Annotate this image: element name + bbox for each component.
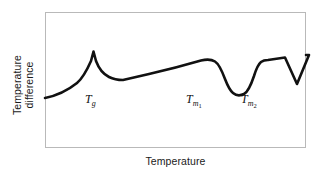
annotation-tm2: Tm2 xyxy=(241,92,257,107)
annotation-tm1: Tm1 xyxy=(186,92,202,107)
thermogram-curve xyxy=(45,12,306,148)
dta-thermogram-figure: Temperature difference Tg Tm1 Tm2 Temper… xyxy=(0,0,319,177)
x-axis-label: Temperature xyxy=(45,155,306,167)
annotation-tm1-symbol: T xyxy=(186,92,193,106)
annotation-tg: Tg xyxy=(85,92,96,107)
y-axis-label-line-2: difference xyxy=(24,62,36,109)
y-axis-label: Temperature difference xyxy=(9,30,39,140)
annotation-tg-symbol: T xyxy=(85,92,92,106)
annotation-tg-subscript: g xyxy=(92,99,96,108)
annotation-tm2-sub-index: 2 xyxy=(253,102,256,109)
annotation-tm1-sub-index: 1 xyxy=(198,102,201,109)
annotation-tm2-subscript: m2 xyxy=(248,99,257,108)
annotation-tm2-symbol: T xyxy=(241,92,248,106)
annotation-tm1-subscript: m1 xyxy=(193,99,202,108)
